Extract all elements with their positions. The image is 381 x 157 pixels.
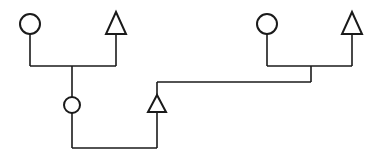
- female-circle-icon: [64, 97, 80, 113]
- right-parent-couple: [157, 12, 362, 95]
- male-triangle-icon: [342, 12, 362, 34]
- male-triangle-icon: [148, 95, 166, 112]
- pedigree-diagram: [0, 0, 381, 157]
- female-circle-icon: [257, 14, 277, 34]
- left-parent-couple: [20, 12, 126, 97]
- male-triangle-icon: [106, 12, 126, 34]
- child-couple: [64, 95, 166, 148]
- female-circle-icon: [20, 14, 40, 34]
